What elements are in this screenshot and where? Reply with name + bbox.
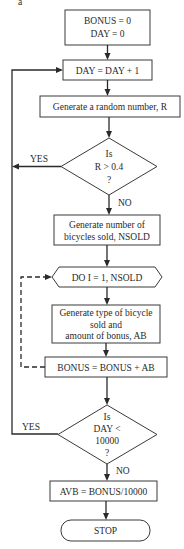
decision-r-no-branch: NO <box>106 195 132 215</box>
decision-day-diamond: Is DAY < 10000 ? <box>58 405 157 464</box>
generate-type-line3: amount of bonus, AB <box>65 331 146 341</box>
average-box: AVB = BONUS/10000 <box>50 481 157 501</box>
decision-r-line3: ? <box>107 175 111 185</box>
decision-r-diamond: Is R > 0.4 ? <box>61 138 157 195</box>
decision-day-yes-label: YES <box>22 422 40 432</box>
arrow-accumulate-to-decision <box>104 377 110 405</box>
do-loop-hexagon: DO I = 1, NSOLD <box>52 267 162 287</box>
arrow-do-to-type <box>104 287 110 305</box>
decision-day-line3: 10000 <box>95 436 119 446</box>
figure-label: a <box>18 0 23 7</box>
decision-day-no-label: NO <box>116 466 130 476</box>
arrow-init-to-day <box>105 45 111 60</box>
stop-terminal: STOP <box>61 520 150 541</box>
arrow-average-to-stop <box>103 501 109 520</box>
decision-day-no-branch: NO <box>104 464 130 481</box>
generate-nsold-line1: Generate number of <box>69 220 146 230</box>
random-number-text: Generate a random number, R <box>53 102 168 112</box>
generate-type-line1: Generate type of bicycle <box>59 308 152 318</box>
increment-day-box: DAY = DAY + 1 <box>63 60 152 80</box>
flowchart-canvas: a BONUS = 0 DAY = 0 DAY = DAY + 1 Genera… <box>0 0 184 549</box>
generate-nsold-line2: bicycles sold, NSOLD <box>64 232 150 242</box>
arrow-nsold-to-do <box>104 245 110 267</box>
decision-day-line1: Is <box>104 412 111 422</box>
decision-r-line1: Is <box>106 149 113 159</box>
arrow-day-to-random <box>105 80 111 96</box>
accumulate-bonus-box: BONUS = BONUS + AB <box>45 357 167 377</box>
generate-type-box: Generate type of bicycle sold and amount… <box>52 305 160 343</box>
accumulate-bonus-text: BONUS = BONUS + AB <box>57 363 154 373</box>
decision-day-line4: ? <box>105 448 109 458</box>
decision-r-yes-label: YES <box>30 154 48 164</box>
decision-r-yes-branch: YES <box>12 154 61 170</box>
init-line2: DAY = 0 <box>90 29 124 39</box>
init-line1: BONUS = 0 <box>84 16 131 26</box>
average-text: AVB = BONUS/10000 <box>60 487 148 497</box>
decision-r-line2: R > 0.4 <box>95 162 124 172</box>
do-loop-text: DO I = 1, NSOLD <box>72 273 143 283</box>
init-box: BONUS = 0 DAY = 0 <box>65 10 150 45</box>
stop-text: STOP <box>94 526 117 536</box>
generate-type-line2: sold and <box>90 320 122 330</box>
decision-day-line2: DAY < <box>93 424 120 434</box>
increment-day-text: DAY = DAY + 1 <box>76 66 140 76</box>
decision-r-no-label: NO <box>118 198 132 208</box>
outer-loop-connector <box>12 67 63 434</box>
arrow-random-to-decision <box>106 117 112 138</box>
random-number-box: Generate a random number, R <box>40 96 180 117</box>
arrow-type-to-accumulate <box>103 343 109 357</box>
inner-dashed-loop-connector <box>21 274 52 367</box>
generate-nsold-box: Generate number of bicycles sold, NSOLD <box>54 215 160 245</box>
